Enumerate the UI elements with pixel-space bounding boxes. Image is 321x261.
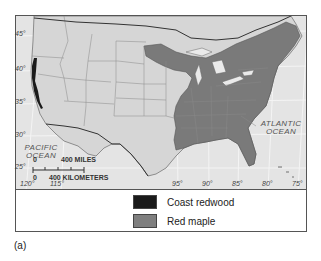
legend: Coast redwood Red maple: [15, 190, 307, 232]
lon-label-95: 95°: [172, 180, 183, 187]
legend-item-red-maple: Red maple: [133, 214, 215, 228]
lon-label-75: 75°: [292, 180, 303, 187]
lat-label-45: 45°: [15, 30, 26, 37]
range-map-figure: PACIFIC OCEAN ATLANTIC OCEAN 0 400 MILES…: [0, 0, 321, 261]
lon-label-90: 90°: [202, 180, 213, 187]
us-map: [16, 16, 307, 190]
lat-label-35: 35°: [15, 98, 26, 105]
swatch-coast-redwood: [133, 195, 157, 209]
legend-label-red-maple: Red maple: [167, 216, 215, 227]
pacific-ocean-label: PACIFIC OCEAN: [16, 144, 66, 160]
lat-label-25: 25°: [15, 163, 26, 170]
lat-label-30: 30°: [15, 131, 26, 138]
lon-label-115: 115°: [50, 180, 64, 187]
lon-label-85: 85°: [232, 180, 243, 187]
scale-miles-zero: 0: [33, 156, 37, 163]
lat-label-40: 40°: [15, 65, 26, 72]
scale-ruler: [32, 166, 88, 174]
legend-label-coast-redwood: Coast redwood: [167, 197, 234, 208]
figure-caption: (a): [14, 240, 26, 251]
atlantic-ocean-label: ATLANTIC OCEAN: [256, 120, 306, 136]
lon-label-80: 80°: [262, 180, 273, 187]
lon-label-120: 120°: [20, 180, 34, 187]
swatch-red-maple: [133, 214, 157, 228]
legend-item-coast-redwood: Coast redwood: [133, 195, 234, 209]
scale-miles-label: 400 MILES: [61, 156, 96, 163]
map-frame: PACIFIC OCEAN ATLANTIC OCEAN 0 400 MILES…: [15, 15, 307, 190]
